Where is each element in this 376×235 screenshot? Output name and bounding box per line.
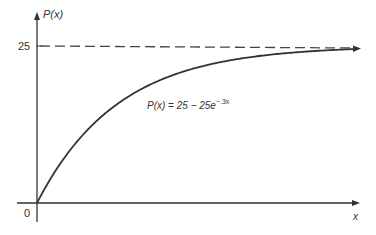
y-tick-label-25: 25 <box>18 41 30 52</box>
curve-arrow-icon <box>353 46 361 53</box>
y-axis-label: P(x) <box>43 9 63 20</box>
annotation-main: P(x) = 25 − 25e <box>147 100 216 111</box>
chart-canvas <box>0 0 376 235</box>
annotation-exponent: −.3x <box>216 98 229 105</box>
x-axis-arrow-icon <box>352 200 360 206</box>
origin-label: 0 <box>24 208 30 219</box>
y-axis-arrow-icon <box>34 12 40 20</box>
function-annotation: P(x) = 25 − 25e−.3x <box>147 98 229 111</box>
curve-p-of-x <box>37 49 353 203</box>
asymptote-line <box>40 46 354 48</box>
x-axis-label: x <box>353 212 358 222</box>
